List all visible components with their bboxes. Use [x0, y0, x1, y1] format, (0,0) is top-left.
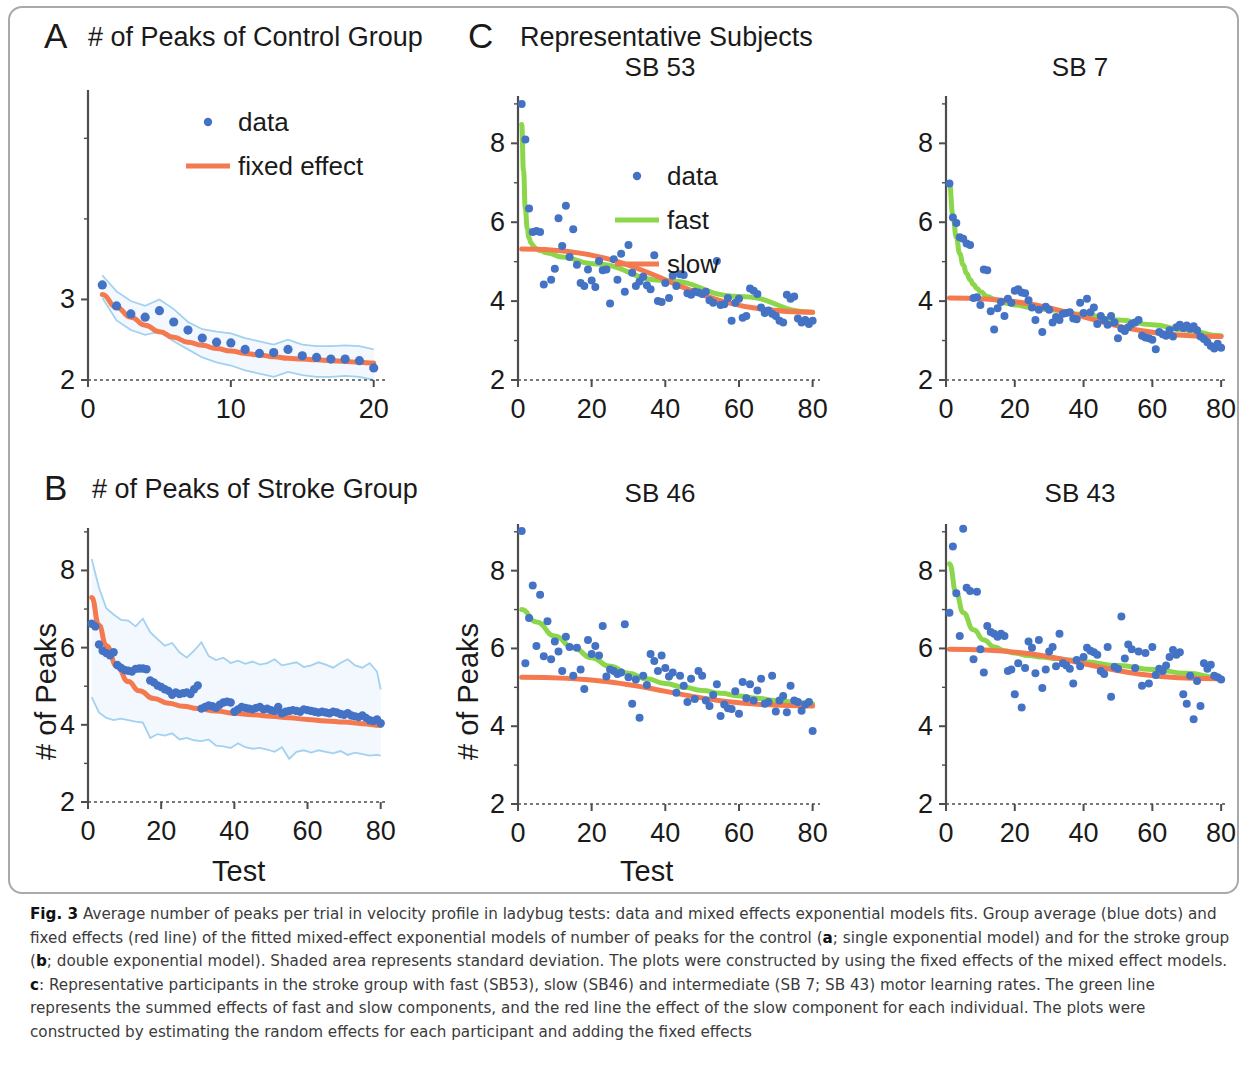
data-point — [728, 317, 736, 325]
x-tick-label: 40 — [650, 818, 680, 848]
plot-area-sb43: 2468020406080 — [898, 516, 1238, 852]
chart-sb43: 2468020406080 — [898, 516, 1238, 852]
series-scatter-data — [945, 525, 1225, 724]
y-tick-label: 2 — [490, 365, 505, 395]
data-point — [1207, 661, 1215, 669]
sd-band-fill — [92, 559, 381, 759]
y-tick-label: 3 — [60, 284, 75, 314]
data-point — [1148, 643, 1156, 651]
data-point — [639, 273, 647, 281]
data-point — [198, 334, 207, 343]
x-tick-label: 0 — [80, 394, 95, 424]
y-tick-label: 8 — [490, 556, 505, 586]
data-point — [794, 698, 802, 706]
caption-part-3: ; double exponential model). Shaded area… — [47, 952, 1227, 970]
x-tick-label: 20 — [146, 816, 176, 846]
data-point — [753, 686, 761, 694]
data-point — [602, 266, 610, 274]
panel-title-b: # of Peaks of Stroke Group — [92, 474, 418, 505]
data-point — [945, 180, 953, 188]
data-point — [591, 642, 599, 650]
data-point — [1114, 334, 1122, 342]
data-point — [183, 325, 192, 334]
subplot-title-sb7: SB 7 — [990, 52, 1170, 83]
chart-sb7: 2468020406080 — [898, 88, 1238, 428]
data-point — [683, 698, 691, 706]
data-point — [706, 702, 714, 710]
data-point — [970, 655, 978, 663]
data-point — [980, 669, 988, 677]
data-point — [112, 301, 121, 310]
x-tick-label: 60 — [1137, 394, 1167, 424]
y-tick-label: 8 — [918, 128, 933, 158]
data-point — [624, 241, 632, 249]
legend-marker-dot — [633, 172, 641, 180]
data-point — [595, 651, 603, 659]
data-point — [628, 269, 636, 277]
data-point — [702, 288, 710, 296]
data-point — [691, 695, 699, 703]
data-point — [569, 672, 577, 680]
data-point — [739, 678, 747, 686]
data-point — [529, 581, 537, 589]
data-point — [805, 698, 813, 706]
data-point — [698, 672, 706, 680]
data-point — [959, 525, 967, 533]
data-point — [1138, 682, 1146, 690]
data-point — [687, 675, 695, 683]
data-point — [369, 363, 378, 372]
data-point — [226, 338, 235, 347]
data-point — [632, 676, 640, 684]
data-point — [779, 318, 787, 326]
data-point — [643, 681, 651, 689]
y-tick-label: 2 — [60, 787, 75, 817]
data-point — [952, 589, 960, 597]
data-point — [658, 651, 666, 659]
axis-label-x-panel-b: Test — [212, 855, 265, 888]
data-point — [155, 306, 164, 315]
y-tick-label: 8 — [490, 128, 505, 158]
data-point — [680, 682, 688, 690]
x-tick-label: 0 — [510, 818, 525, 848]
data-point — [547, 276, 555, 284]
data-point — [1117, 613, 1125, 621]
data-point — [1093, 651, 1101, 659]
legend-marker-dot — [204, 118, 212, 126]
data-point — [1169, 333, 1177, 341]
y-tick-label: 4 — [918, 286, 933, 316]
data-point — [1114, 665, 1122, 673]
data-point — [1035, 306, 1043, 314]
plot-area-sb7: 2468020406080 — [898, 88, 1238, 428]
data-point — [312, 353, 321, 362]
data-point — [746, 680, 754, 688]
panel-letter-c: C — [468, 16, 493, 56]
data-point — [1014, 659, 1022, 667]
data-point — [987, 307, 995, 315]
data-point — [1104, 321, 1112, 329]
data-point — [717, 712, 725, 720]
data-point — [1083, 295, 1091, 303]
data-point — [973, 588, 981, 596]
data-point — [562, 633, 570, 641]
sd-band-fill — [102, 275, 373, 380]
data-point — [1049, 643, 1057, 651]
data-point — [1186, 672, 1194, 680]
data-point — [142, 665, 150, 673]
data-point — [569, 225, 577, 233]
data-point — [540, 652, 548, 660]
data-point — [1183, 700, 1191, 708]
data-point — [1038, 684, 1046, 692]
data-point — [735, 295, 743, 303]
data-point — [809, 317, 817, 325]
data-point — [764, 698, 772, 706]
figure-caption: Fig. 3 Average number of peaks per trial… — [30, 903, 1230, 1044]
y-tick-label: 2 — [918, 365, 933, 395]
data-point — [713, 680, 721, 688]
data-point — [525, 614, 533, 622]
legend-label: data — [667, 161, 718, 191]
data-point — [1145, 679, 1153, 687]
data-point — [1007, 299, 1015, 307]
data-point — [1028, 303, 1036, 311]
data-point — [1148, 336, 1156, 344]
x-tick-label: 60 — [724, 818, 754, 848]
